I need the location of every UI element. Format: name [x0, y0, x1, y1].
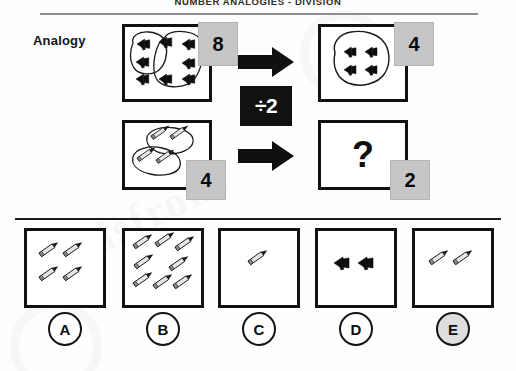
section-divider	[15, 218, 501, 220]
option-c-content	[221, 231, 297, 305]
group-blob	[334, 31, 389, 85]
header-divider	[40, 13, 478, 15]
option-e-content	[415, 231, 491, 305]
megaphone-icon	[159, 37, 172, 48]
megaphone-icon	[182, 58, 195, 69]
option-a[interactable]: A	[24, 228, 106, 308]
option-a-content	[27, 231, 103, 305]
operator-badge: ÷2	[240, 86, 292, 126]
badge-top-right: 4	[394, 22, 434, 66]
option-e-letter[interactable]: E	[436, 312, 470, 346]
option-b[interactable]: B	[122, 228, 204, 308]
option-d-box[interactable]	[315, 228, 397, 308]
badge-bottom-right: 2	[390, 160, 430, 200]
option-d-letter[interactable]: D	[339, 312, 373, 346]
option-e[interactable]: E	[412, 228, 494, 308]
option-d-content	[318, 231, 394, 305]
megaphone-icon	[365, 47, 377, 57]
megaphone-icon	[182, 39, 195, 50]
panel-content-top-left	[125, 27, 209, 99]
megaphone-icon	[137, 39, 150, 50]
megaphone-icon	[344, 47, 356, 57]
badge-bottom-left: 4	[186, 160, 226, 200]
panel-content-top-right	[321, 27, 405, 99]
option-c-letter[interactable]: C	[242, 312, 276, 346]
arrow-right-icon-bottom	[238, 141, 294, 171]
option-e-box[interactable]	[412, 228, 494, 308]
arrow-right-icon-top	[238, 47, 294, 77]
option-b-letter[interactable]: B	[146, 312, 180, 346]
option-a-box[interactable]	[24, 228, 106, 308]
answer-options: A	[0, 228, 516, 363]
megaphone-icon	[334, 257, 349, 270]
option-b-content	[125, 231, 201, 305]
worksheet-page: Kidsfront NUMBER ANALOGIES - DIVISION An…	[0, 0, 516, 371]
option-d[interactable]: D	[315, 228, 397, 308]
analogy-label: Analogy	[33, 33, 86, 48]
pencil-icon	[151, 124, 170, 139]
option-c-box[interactable]	[218, 228, 300, 308]
megaphone-icon	[358, 257, 373, 270]
megaphone-icon	[136, 57, 149, 68]
pencil-icon	[137, 146, 156, 161]
megaphone-icon	[136, 74, 149, 85]
badge-top-left: 8	[198, 22, 238, 66]
option-b-box[interactable]	[122, 228, 204, 308]
megaphone-icon	[182, 74, 195, 85]
megaphone-icon	[365, 65, 377, 75]
option-c[interactable]: C	[218, 228, 300, 308]
megaphone-icon	[344, 65, 356, 75]
pencil-icon	[156, 148, 175, 163]
group-blob	[131, 32, 167, 74]
option-a-letter[interactable]: A	[48, 312, 82, 346]
page-title: NUMBER ANALOGIES - DIVISION	[0, 0, 516, 7]
